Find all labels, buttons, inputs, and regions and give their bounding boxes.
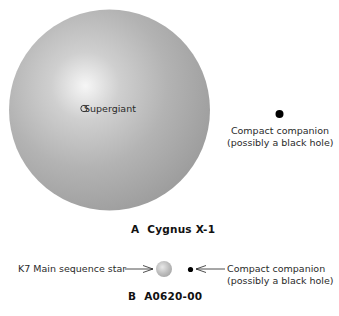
panel-b-title: A0620-00 (144, 290, 202, 302)
panel-b-letter: B (128, 290, 136, 302)
supergiant-label: Supergiant (90, 103, 136, 115)
companion-b-label-line1: Compact companion (227, 263, 334, 275)
companion-a-label: Compact companion (possibly a black hole… (227, 125, 333, 148)
k7-star (156, 261, 172, 277)
companion-a-label-line2: (possibly a black hole) (227, 137, 333, 149)
panel-b-caption: BA0620-00 (128, 290, 202, 302)
panel-a-caption: ACygnus X-1 (131, 223, 215, 235)
arrow-left-icon (196, 266, 225, 273)
k7-star-label: K7 Main sequence star (18, 263, 126, 275)
compact-companion-a (276, 110, 284, 118)
panel-a-letter: A (131, 223, 139, 235)
k7-star-label-text: K7 Main sequence star (18, 263, 126, 274)
companion-b-label: Compact companion (possibly a black hole… (227, 263, 334, 286)
panel-a-title: Cygnus X-1 (147, 223, 215, 235)
compact-companion-b (188, 267, 193, 272)
companion-b-label-line2: (possibly a black hole) (227, 275, 334, 287)
arrow-right-icon (125, 266, 153, 273)
companion-a-label-line1: Compact companion (227, 125, 333, 137)
supergiant-label-text: Supergiant (84, 103, 136, 115)
